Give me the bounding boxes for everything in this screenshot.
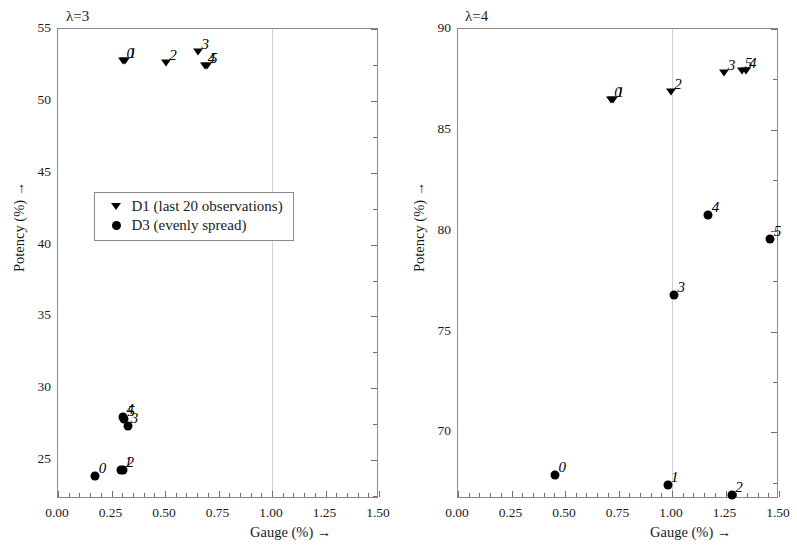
x-axis-tick-label: 0.50 <box>552 505 576 521</box>
data-point-label: 3 <box>728 57 736 74</box>
y-axis-minor-tick <box>373 65 377 66</box>
x-axis-minor-tick <box>144 493 145 497</box>
x-axis-minor-tick <box>197 493 198 497</box>
reference-gridline <box>272 29 273 497</box>
x-axis-tick <box>326 491 327 497</box>
x-axis-tick <box>112 491 113 497</box>
x-axis-tick <box>565 491 566 497</box>
x-axis-tick-label: 1.50 <box>766 505 790 521</box>
x-axis-minor-tick <box>358 493 359 497</box>
x-axis-minor-tick <box>586 493 587 497</box>
y-axis-minor-tick <box>373 281 377 282</box>
x-axis-minor-tick <box>693 493 694 497</box>
x-axis-tick <box>272 491 273 497</box>
x-axis-tick <box>726 491 727 497</box>
y-axis-minor-tick <box>373 137 377 138</box>
x-axis-minor-tick <box>469 493 470 497</box>
x-axis-minor-tick <box>683 493 684 497</box>
y-axis-tick-label: 45 <box>21 164 51 180</box>
x-axis-minor-tick <box>640 493 641 497</box>
y-axis-tick-label: 25 <box>21 451 51 467</box>
y-axis-tick <box>771 432 777 433</box>
x-axis-title-right: Gauge (%) → <box>650 524 731 541</box>
plot-area-right: 012345012345 <box>457 28 778 498</box>
panel-lambda-3: λ=3 Potency (%) → 012345012345 Gauge (%)… <box>0 0 398 552</box>
x-axis-minor-tick <box>544 493 545 497</box>
x-axis-minor-tick <box>651 493 652 497</box>
y-axis-title-left: Potency (%) → <box>11 182 28 272</box>
x-axis-minor-tick <box>208 493 209 497</box>
x-axis-minor-tick <box>176 493 177 497</box>
x-axis-tick <box>512 491 513 497</box>
circle-marker-icon <box>105 221 127 230</box>
y-axis-minor-tick <box>773 79 777 80</box>
plot-area-left: 012345012345 <box>57 28 378 498</box>
y-axis-tick <box>771 332 777 333</box>
x-axis-tick-label: 0.75 <box>206 505 230 521</box>
legend: D1 (last 20 observations)D3 (evenly spre… <box>94 192 293 241</box>
data-point-label: 5 <box>210 50 218 67</box>
x-axis-minor-tick <box>490 493 491 497</box>
x-axis-minor-tick <box>576 493 577 497</box>
y-axis-minor-tick <box>373 352 377 353</box>
x-axis-minor-tick <box>501 493 502 497</box>
scatter-figure: λ=3 Potency (%) → 012345012345 Gauge (%)… <box>0 0 797 552</box>
x-axis-tick <box>165 491 166 497</box>
x-axis-tick <box>672 491 673 497</box>
y-axis-tick <box>371 460 377 461</box>
y-axis-tick-label: 50 <box>21 92 51 108</box>
x-axis-tick <box>219 491 220 497</box>
data-point-label: 1 <box>671 468 679 485</box>
data-point-label: 2 <box>127 454 135 471</box>
x-axis-minor-tick <box>304 493 305 497</box>
legend-label: D1 (last 20 observations) <box>127 198 282 215</box>
x-axis-minor-tick <box>704 493 705 497</box>
y-axis-tick-label: 75 <box>421 323 451 339</box>
x-axis-tick <box>619 491 620 497</box>
y-axis-tick-label: 85 <box>421 121 451 137</box>
x-axis-tick <box>779 491 780 497</box>
x-axis-minor-tick <box>747 493 748 497</box>
y-axis-tick-label: 90 <box>421 20 451 36</box>
legend-item: D1 (last 20 observations) <box>105 197 282 216</box>
x-axis-minor-tick <box>533 493 534 497</box>
x-axis-minor-tick <box>315 493 316 497</box>
x-axis-tick <box>58 491 59 497</box>
panel-lambda-4: λ=4 Potency (%) → 012345012345 Gauge (%)… <box>399 0 797 552</box>
x-axis-tick <box>379 491 380 497</box>
y-axis-tick-label: 40 <box>21 236 51 252</box>
data-point-label: 1 <box>616 83 624 100</box>
x-axis-minor-tick <box>479 493 480 497</box>
y-axis-tick-label: 70 <box>421 423 451 439</box>
data-point-label: 0 <box>559 458 567 475</box>
x-axis-minor-tick <box>69 493 70 497</box>
y-axis-tick <box>371 29 377 30</box>
y-axis-minor-tick <box>373 209 377 210</box>
x-axis-tick <box>458 491 459 497</box>
panel-label-lambda-4: λ=4 <box>465 8 488 25</box>
x-axis-minor-tick <box>293 493 294 497</box>
x-axis-minor-tick <box>251 493 252 497</box>
x-axis-minor-tick <box>154 493 155 497</box>
x-axis-tick-label: 0.00 <box>45 505 69 521</box>
data-point-label: 2 <box>169 47 177 64</box>
y-axis-tick <box>371 316 377 317</box>
panel-label-lambda-3: λ=3 <box>66 8 89 25</box>
data-point-label: 4 <box>712 198 720 215</box>
y-axis-tick <box>371 101 377 102</box>
y-axis-tick-label: 55 <box>21 20 51 36</box>
x-axis-minor-tick <box>608 493 609 497</box>
x-axis-tick-label: 0.75 <box>606 505 630 521</box>
x-axis-tick-label: 0.50 <box>152 505 176 521</box>
data-point-label: 3 <box>677 279 685 296</box>
y-axis-minor-tick <box>373 424 377 425</box>
data-point-label: 1 <box>129 44 137 61</box>
x-axis-minor-tick <box>597 493 598 497</box>
data-point-label: 5 <box>745 55 753 72</box>
x-axis-minor-tick <box>336 493 337 497</box>
x-axis-minor-tick <box>101 493 102 497</box>
x-axis-minor-tick <box>768 493 769 497</box>
reference-gridline <box>672 29 673 497</box>
y-axis-minor-tick <box>773 180 777 181</box>
x-axis-minor-tick <box>283 493 284 497</box>
